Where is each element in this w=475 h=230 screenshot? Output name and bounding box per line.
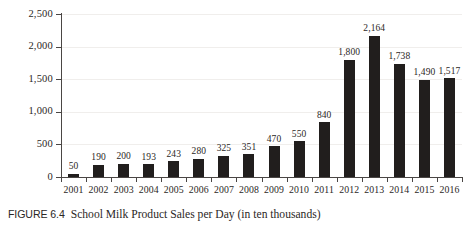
bar-value-label: 470	[267, 135, 282, 145]
bar-value-label: 280	[192, 147, 207, 157]
bar[interactable]	[193, 159, 204, 177]
bar-group: 200	[111, 14, 136, 177]
y-axis-tick-label-wrap: 2,500	[0, 9, 53, 20]
bar-group: 280	[186, 14, 211, 177]
figure-caption-title: School Milk Product Sales per Day (in te…	[71, 208, 321, 221]
x-axis-tick-label: 2016	[437, 185, 462, 195]
bar-group: 840	[312, 14, 337, 177]
bar-group: 1,517	[437, 14, 462, 177]
x-axis-tick-label: 2005	[161, 185, 186, 195]
x-axis-tick-label: 2008	[236, 185, 261, 195]
bar-group: 1,490	[412, 14, 437, 177]
x-axis-tick	[61, 177, 62, 182]
x-axis-tick	[462, 177, 463, 182]
bar-value-label: 200	[116, 152, 131, 162]
plot-area: 501902001932432803253514705508401,8002,1…	[61, 14, 462, 177]
x-axis-tick	[86, 177, 87, 182]
bar-group: 2,164	[362, 14, 387, 177]
bar-value-label: 550	[292, 130, 307, 140]
bar[interactable]	[269, 146, 280, 177]
x-axis-tick-label: 2007	[211, 185, 236, 195]
y-axis-tick-label-wrap: 2,000	[0, 41, 53, 52]
bar-value-label: 2,164	[363, 24, 385, 34]
bar[interactable]	[419, 80, 430, 177]
bar-value-label: 351	[242, 143, 257, 153]
bar[interactable]	[68, 174, 79, 177]
x-axis-tick	[362, 177, 363, 182]
x-axis-tick-label: 2014	[387, 185, 412, 195]
y-axis-tick-label-wrap: 1,000	[0, 106, 53, 117]
figure-caption: FIGURE 6.4School Milk Product Sales per …	[8, 207, 468, 222]
bar-group: 193	[136, 14, 161, 177]
bar-value-label: 50	[69, 162, 79, 172]
x-axis-tick	[262, 177, 263, 182]
x-axis-tick-label: 2013	[362, 185, 387, 195]
figure-container: 05001,0001,5002,0002,500 501902001932432…	[0, 0, 475, 230]
bar-chart: 05001,0001,5002,0002,500 501902001932432…	[0, 0, 475, 200]
x-axis-tick-label: 2006	[186, 185, 211, 195]
x-axis-tick	[186, 177, 187, 182]
y-axis-tick-label: 0	[1, 172, 53, 183]
bar[interactable]	[143, 164, 154, 177]
y-axis-tick-label-wrap: 0	[0, 172, 53, 183]
x-axis-tick	[136, 177, 137, 182]
bar-value-label: 190	[91, 153, 106, 163]
y-axis-tick-label: 2,500	[1, 9, 53, 20]
x-axis-tick	[312, 177, 313, 182]
x-axis-tick	[412, 177, 413, 182]
x-axis-tick-label: 2001	[61, 185, 86, 195]
bar-group: 351	[236, 14, 261, 177]
bar-value-label: 1,800	[338, 48, 360, 58]
bar-value-label: 1,738	[388, 52, 410, 62]
bar-value-label: 1,490	[413, 68, 435, 78]
x-axis-tick	[287, 177, 288, 182]
bar[interactable]	[369, 36, 380, 177]
bar-group: 190	[86, 14, 111, 177]
x-axis-tick-label: 2002	[86, 185, 111, 195]
bar[interactable]	[93, 165, 104, 177]
x-axis-tick	[211, 177, 212, 182]
x-axis-tick-label: 2015	[412, 185, 437, 195]
x-axis-tick	[161, 177, 162, 182]
bar[interactable]	[118, 164, 129, 177]
bar[interactable]	[394, 64, 405, 177]
bar-value-label: 1,517	[439, 67, 461, 77]
y-axis-tick-label-wrap: 1,500	[0, 74, 53, 85]
bar-group: 1,738	[387, 14, 412, 177]
x-axis-tick	[437, 177, 438, 182]
x-axis-tick-label: 2003	[111, 185, 136, 195]
y-axis-tick-label-wrap: 500	[0, 139, 53, 150]
bar[interactable]	[344, 60, 355, 177]
bar-value-label: 243	[167, 150, 182, 160]
x-axis-tick-label: 2004	[136, 185, 161, 195]
bar-group: 1,800	[337, 14, 362, 177]
bar[interactable]	[444, 78, 455, 177]
x-axis-tick-label: 2009	[262, 185, 287, 195]
bar-group: 50	[61, 14, 86, 177]
x-axis-tick-label: 2011	[312, 185, 337, 195]
x-axis-tick	[337, 177, 338, 182]
bar[interactable]	[319, 122, 330, 177]
y-axis-tick-label: 1,000	[1, 106, 53, 117]
bar-group: 470	[262, 14, 287, 177]
bar[interactable]	[294, 141, 305, 177]
x-axis-tick	[236, 177, 237, 182]
x-axis-tick	[111, 177, 112, 182]
bar[interactable]	[218, 156, 229, 177]
figure-number: FIGURE 6.4	[8, 208, 65, 220]
y-axis-tick-label: 1,500	[1, 74, 53, 85]
bar-group: 325	[211, 14, 236, 177]
x-axis-tick-label: 2010	[287, 185, 312, 195]
bar[interactable]	[243, 154, 254, 177]
x-axis-tick	[387, 177, 388, 182]
bar-value-label: 193	[141, 153, 156, 163]
y-axis-tick-label: 2,000	[1, 41, 53, 52]
x-axis-tick-label: 2012	[337, 185, 362, 195]
bar-value-label: 325	[217, 144, 232, 154]
y-axis-tick-label: 500	[1, 139, 53, 150]
bar[interactable]	[168, 161, 179, 177]
bar-group: 243	[161, 14, 186, 177]
bar-value-label: 840	[317, 111, 332, 121]
bar-group: 550	[287, 14, 312, 177]
